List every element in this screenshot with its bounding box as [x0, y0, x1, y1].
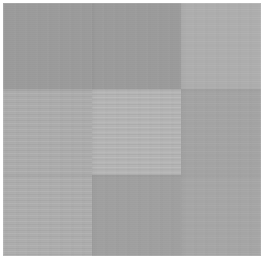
patch-middle-left: [3, 89, 92, 175]
patch-fill: [92, 89, 181, 175]
patch-fill: [3, 175, 92, 256]
patch-fill: [3, 89, 92, 175]
patch-bottom-left: [3, 175, 92, 256]
patch-fill: [181, 89, 261, 175]
patch-fill: [92, 175, 181, 256]
patch-middle-center: [92, 89, 181, 175]
patch-fill: [181, 175, 261, 256]
patch-top-left: [3, 3, 181, 89]
patch-top-right: [181, 3, 261, 89]
patch-fill: [181, 3, 261, 89]
patch-bottom-center: [92, 175, 181, 256]
image-canvas: [0, 0, 265, 260]
gray-patch-mosaic: [3, 3, 261, 256]
patch-middle-right: [181, 89, 261, 175]
patch-fill: [3, 3, 181, 89]
patch-bottom-right: [181, 175, 261, 256]
